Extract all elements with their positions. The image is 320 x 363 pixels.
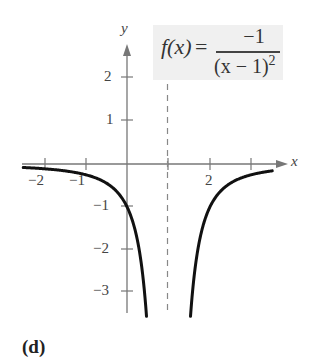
x-axis-label: x <box>291 153 298 170</box>
function-name: f(x) <box>161 34 192 60</box>
fraction-numerator: −1 <box>228 25 280 48</box>
denominator-exponent: 2 <box>269 53 276 68</box>
y-tick-label-1: 1 <box>106 111 114 128</box>
y-tick-label-2: 2 <box>104 68 112 85</box>
panel-label: (d) <box>22 336 45 358</box>
x-tick-label-neg1: −1 <box>69 172 85 189</box>
y-tick-label-neg3: −3 <box>93 282 109 299</box>
y-axis-label: y <box>121 20 128 37</box>
y-tick-label-neg2: −2 <box>93 240 109 257</box>
x-axis-arrow-icon <box>276 160 288 168</box>
denominator-base: (x − 1) <box>214 55 269 77</box>
y-tick-label-neg1: −1 <box>93 197 109 214</box>
x-tick-label-2: 2 <box>205 172 213 189</box>
curve-left-branch <box>23 167 146 316</box>
y-axis-arrow-icon <box>123 44 131 56</box>
x-tick-label-neg2: −2 <box>28 172 44 189</box>
fraction-denominator: (x − 1)2 <box>214 53 276 78</box>
equals-sign: = <box>195 34 207 60</box>
curve-right-branch <box>191 171 273 317</box>
